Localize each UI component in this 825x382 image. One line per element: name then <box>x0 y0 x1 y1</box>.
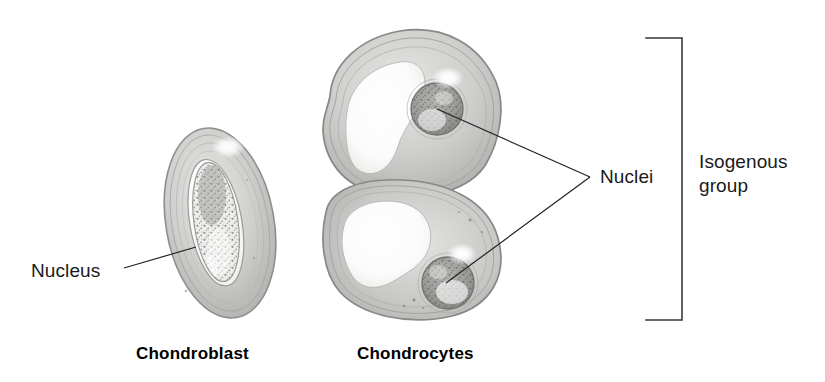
label-isogenous-line1: Isogenous <box>699 151 788 172</box>
label-isogenous-line2: group <box>699 174 788 198</box>
caption-chondroblast: Chondroblast <box>136 344 249 364</box>
chondrocyte-upper-cell <box>323 30 501 197</box>
chondrocyte-lower-cell <box>323 180 501 320</box>
label-nuclei: Nuclei <box>600 165 653 189</box>
chondrocyte-lower-highlight <box>447 243 477 265</box>
chondroblast-highlight <box>211 136 245 158</box>
chondrocyte-upper-highlight <box>432 67 464 89</box>
chondrocyte-pair <box>323 30 501 320</box>
chondroblast-cell <box>150 119 290 327</box>
label-nucleus: Nucleus <box>31 259 100 283</box>
label-isogenous-group: Isogenous group <box>699 150 788 198</box>
caption-chondrocytes: Chondrocytes <box>357 344 474 364</box>
cartilage-cell-diagram: Nucleus Nuclei Isogenous group Chondrobl… <box>0 0 825 382</box>
